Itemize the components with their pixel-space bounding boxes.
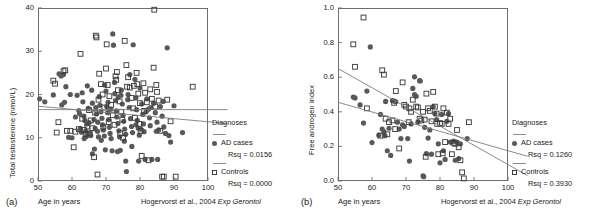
data-point-ad-case <box>136 159 141 164</box>
figure-container: Total testosterone (nmol/L) 010203040 50… <box>0 0 589 217</box>
data-point-ad-case <box>436 141 441 146</box>
data-point-ad-case <box>421 174 426 179</box>
y-tick-label: 0.8 <box>312 38 334 47</box>
data-point-ad-case <box>168 139 173 144</box>
data-point-control <box>150 96 155 101</box>
x-tick-label: 80 <box>129 183 151 192</box>
data-point-ad-case <box>80 90 85 95</box>
x-tick-label: 100 <box>197 183 219 192</box>
data-point-ad-case <box>383 99 388 104</box>
data-point-ad-case <box>63 84 68 89</box>
data-point-ad-case <box>62 100 67 105</box>
data-point-ad-case <box>129 124 134 129</box>
data-point-ad-case <box>144 96 149 101</box>
regression-line-ad-cases <box>38 106 228 123</box>
data-point-ad-case <box>165 45 170 50</box>
data-point-control <box>431 90 436 95</box>
x-tick-label: 60 <box>61 183 83 192</box>
data-point-ad-case <box>75 93 80 98</box>
data-point-control <box>361 15 366 20</box>
data-point-ad-case <box>358 102 363 107</box>
data-point-control <box>152 7 157 12</box>
regression-line-ad-cases <box>338 102 528 156</box>
y-tick-label: 20 <box>12 90 34 99</box>
data-point-ad-case <box>415 120 420 125</box>
citation-b: Hogervorst et al., 2004 Exp Gerontol <box>441 197 561 206</box>
data-point-ad-case <box>368 44 373 49</box>
data-point-ad-case <box>154 120 159 125</box>
legend-swatch-square-a <box>212 170 217 175</box>
data-point-ad-case <box>37 96 42 101</box>
data-point-ad-case <box>155 157 160 162</box>
series-ad-cases <box>351 44 470 179</box>
data-point-ad-case <box>112 91 117 96</box>
legend-rsq-cases-b: Rsq = 0.1260 <box>528 150 572 159</box>
data-point-ad-case <box>386 126 391 131</box>
citation-journal-b: Exp Gerontol <box>518 197 561 206</box>
data-point-control <box>71 145 76 150</box>
data-point-ad-case <box>158 104 163 109</box>
data-point-control <box>460 170 465 175</box>
legend-item-ad-cases-b: AD cases <box>512 138 553 147</box>
citation-journal-a: Exp Gerontol <box>218 197 261 206</box>
legend-item-controls-b: Controls <box>512 167 549 176</box>
data-point-ad-case <box>122 139 127 144</box>
data-point-ad-case <box>426 135 431 140</box>
data-point-control <box>95 172 100 177</box>
data-point-ad-case <box>89 88 94 93</box>
panel-b: Free androgen index 0.00.20.40.60.81.0 5… <box>295 0 589 217</box>
legend-rsq-cases-a: Rsq = 0.0156 <box>228 150 272 159</box>
data-point-ad-case <box>68 92 73 97</box>
data-point-control <box>400 80 405 85</box>
data-point-ad-case <box>130 130 135 135</box>
legend-swatch-circle-b <box>512 141 517 146</box>
data-point-ad-case <box>115 149 120 154</box>
data-point-ad-case <box>405 136 410 141</box>
legend-line-controls-b <box>513 163 526 164</box>
x-tick-label: 50 <box>27 183 49 192</box>
data-point-ad-case <box>439 112 444 117</box>
y-tick-label: 0.4 <box>312 107 334 116</box>
data-point-ad-case <box>443 157 448 162</box>
citation-text-b: Hogervorst et al., 2004 <box>441 197 518 206</box>
data-point-control <box>107 94 112 99</box>
y-tick-label: 10 <box>12 133 34 142</box>
data-point-control <box>136 91 141 96</box>
data-point-control <box>351 42 356 47</box>
x-tick-label: 70 <box>395 183 417 192</box>
data-point-ad-case <box>80 99 85 104</box>
data-point-ad-case <box>398 136 403 141</box>
data-point-ad-case <box>395 120 400 125</box>
data-point-ad-case <box>429 152 434 157</box>
data-point-control <box>455 128 460 133</box>
legend-swatch-square-b <box>512 170 517 175</box>
data-point-ad-case <box>123 159 128 164</box>
data-point-ad-case <box>407 159 412 164</box>
data-point-ad-case <box>92 146 97 151</box>
data-point-ad-case <box>95 129 100 134</box>
data-point-control <box>53 81 58 86</box>
data-point-control <box>104 66 109 71</box>
data-point-ad-case <box>121 119 126 124</box>
legend-label-ad-cases-b: AD cases <box>521 138 553 147</box>
data-point-control <box>450 152 455 157</box>
x-tick-label: 90 <box>463 183 485 192</box>
legend-label-controls-b: Controls <box>521 167 549 176</box>
y-tick-label: 40 <box>12 3 34 12</box>
data-point-ad-case <box>42 99 47 104</box>
data-point-ad-case <box>103 88 108 93</box>
data-point-control <box>467 120 472 125</box>
data-point-ad-case <box>138 127 143 132</box>
data-point-control <box>54 130 59 135</box>
panel-a: Total testosterone (nmol/L) 010203040 50… <box>0 0 294 217</box>
legend-line-cases-b <box>513 134 526 135</box>
data-point-control <box>424 91 429 96</box>
data-point-control <box>443 140 448 145</box>
y-tick-label: 0.6 <box>312 72 334 81</box>
legend-rsq-controls-a: Rsq = 0.0000 <box>228 179 272 188</box>
citation-text-a: Hogervorst et al., 2004 <box>141 197 218 206</box>
data-point-ad-case <box>432 111 437 116</box>
panel-tag-a: (a) <box>6 196 17 207</box>
data-point-ad-case <box>85 83 90 88</box>
data-point-ad-case <box>103 147 108 152</box>
